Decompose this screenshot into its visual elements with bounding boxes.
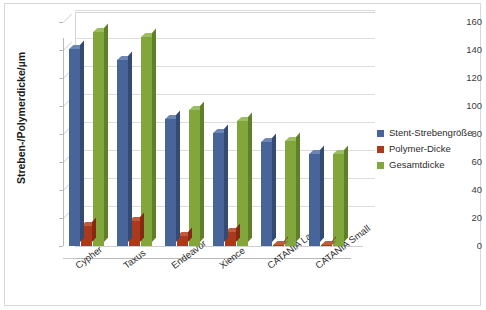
plot-area: 020406080100120140160 Streben-/Polymerdi… xyxy=(5,4,482,307)
bar[interactable] xyxy=(189,110,200,246)
bar-front-face xyxy=(333,154,344,246)
bar-side-face xyxy=(224,124,228,242)
y-axis-tick-label: 20 xyxy=(430,213,482,222)
legend-swatch xyxy=(377,162,384,169)
bar-front-face xyxy=(261,142,272,246)
bar-side-face xyxy=(80,40,84,242)
bar-side-face xyxy=(176,110,180,242)
bar[interactable] xyxy=(285,141,296,246)
bar-front-face xyxy=(273,245,284,246)
y-axis-tick-label: 160 xyxy=(430,17,482,26)
bar-group xyxy=(261,14,308,246)
bar-front-face xyxy=(117,60,128,246)
bar[interactable] xyxy=(321,245,332,246)
bar-front-face xyxy=(321,245,332,246)
y-axis-tick-label: 0 xyxy=(430,241,482,250)
y-axis-tick-label: 140 xyxy=(430,45,482,54)
bar-front-face xyxy=(93,32,104,246)
bar-side-face xyxy=(128,51,132,242)
bar[interactable] xyxy=(165,119,176,246)
y-axis-title: Streben-/Polymerdicke/µm xyxy=(15,18,27,218)
y-axis-tick-label: 100 xyxy=(430,101,482,110)
legend-swatch xyxy=(377,130,384,137)
legend-item[interactable]: Gesamtdicke xyxy=(377,160,472,170)
bar-side-face xyxy=(272,134,276,242)
bar-front-face xyxy=(285,141,296,246)
bar-group xyxy=(165,14,212,246)
bar-side-face xyxy=(200,102,204,242)
bar-group xyxy=(213,14,260,246)
bar-front-face xyxy=(309,154,320,246)
bar-front-face xyxy=(213,133,224,246)
bar[interactable] xyxy=(273,245,284,246)
bar-front-face xyxy=(165,119,176,246)
gridline xyxy=(75,10,375,11)
bar[interactable] xyxy=(261,142,272,246)
bar-side-face xyxy=(248,113,252,242)
legend-label: Stent-Strebengröße xyxy=(389,128,472,138)
bar[interactable] xyxy=(213,133,224,246)
bar-front-face xyxy=(69,49,80,246)
bar-front-face xyxy=(189,110,200,246)
legend-label: Gesamtdicke xyxy=(389,160,444,170)
bar[interactable] xyxy=(93,32,104,246)
bar-side-face xyxy=(152,29,156,242)
bar-side-face xyxy=(104,23,108,242)
floor-front-edge xyxy=(63,258,351,259)
bar-side-face xyxy=(140,212,144,242)
legend-item[interactable]: Polymer-Dicke xyxy=(377,144,472,154)
bar[interactable] xyxy=(117,60,128,246)
bar[interactable] xyxy=(333,154,344,246)
chart-legend: Stent-StrebengrößePolymer-DickeGesamtdic… xyxy=(377,128,472,176)
legend-swatch xyxy=(377,146,384,153)
bar-side-face xyxy=(344,145,348,242)
bar-series-group xyxy=(63,18,363,258)
bar[interactable] xyxy=(309,154,320,246)
bar[interactable] xyxy=(69,49,80,246)
y-axis-tick-label: 40 xyxy=(430,185,482,194)
bar-side-face xyxy=(296,133,300,242)
legend-label: Polymer-Dicke xyxy=(389,144,451,154)
bar-group xyxy=(309,14,356,246)
y-axis-tick-label: 120 xyxy=(430,73,482,82)
chart-container: 020406080100120140160 Streben-/Polymerdi… xyxy=(4,3,481,306)
bar-side-face xyxy=(320,145,324,242)
legend-item[interactable]: Stent-Strebengröße xyxy=(377,128,472,138)
bar-group xyxy=(117,14,164,246)
bar-group xyxy=(69,14,116,246)
